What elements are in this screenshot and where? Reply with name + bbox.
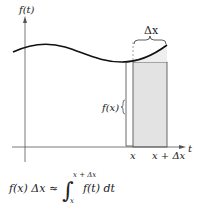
y-axis-label: f(t) xyxy=(18,4,35,15)
tick-label-x: x xyxy=(130,150,136,161)
height-label: f(x) xyxy=(101,102,119,113)
y-axis-arrow-icon xyxy=(23,16,27,23)
x-axis-label: t xyxy=(188,143,193,154)
x-axis-arrow-icon xyxy=(179,145,186,149)
integrand: f(t) dt xyxy=(82,182,116,195)
formula-lhs: f(x) Δx ≈ xyxy=(8,182,58,195)
delta-x-brace xyxy=(134,36,166,44)
tick-label-x-plus-delta: x + Δx xyxy=(152,150,186,161)
integral-approximation-diagram: f(t) t Δx f(x) x x + Δx f(x) Δx ≈ ∫ x + … xyxy=(0,0,197,207)
shaded-rectangle xyxy=(133,62,167,147)
height-brace xyxy=(121,100,125,114)
integral-lower-limit: x xyxy=(70,197,74,205)
delta-x-label: Δx xyxy=(144,24,159,37)
integral-upper-limit: x + Δx xyxy=(73,171,96,179)
